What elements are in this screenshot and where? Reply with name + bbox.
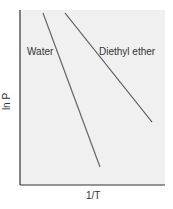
ether-label: Diethyl ether <box>99 46 155 57</box>
water-label: Water <box>27 46 53 57</box>
y-axis-label: ln P <box>1 93 12 110</box>
x-axis-label: 1/T <box>86 190 100 201</box>
chart <box>0 0 173 209</box>
plot-area <box>20 10 165 185</box>
